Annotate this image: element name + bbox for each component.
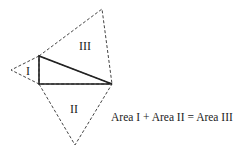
label-ii: II [70, 102, 78, 116]
pythagoras-diagram: I II III [0, 0, 245, 152]
region-i-shape [11, 56, 39, 84]
label-i: I [26, 64, 30, 78]
label-iii: III [79, 39, 91, 53]
area-equation-caption: Area I + Area II = Area III [111, 111, 233, 123]
region-iii-shape [39, 9, 112, 84]
right-triangle [39, 56, 112, 84]
